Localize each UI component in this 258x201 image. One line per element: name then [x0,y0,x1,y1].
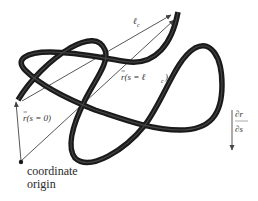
start-position-vector [16,102,21,161]
contour-length-subscript: c [137,22,140,28]
end-vector-subscript: c [161,78,164,84]
end-vector-close: ) [164,72,168,82]
contour-length-label: ℓ c [133,16,140,28]
origin-label-line2: origin [27,177,56,191]
start-vector-label: r(s = 0) [23,112,51,123]
polymer-chain-diagram: ℓ c r(s = ℓ c ) r(s = 0) ∂r ∂s coordinat… [0,0,258,201]
end-vector-text: r(s = ℓ [121,72,146,82]
coordinate-origin-point [19,160,23,164]
origin-label: coordinate origin [27,164,78,191]
origin-label-line1: coordinate [27,164,78,178]
tangent-numerator: ∂r [235,109,243,119]
polymer-tube [18,12,222,162]
end-vector-label: r(s = ℓ c ) [121,71,168,84]
tangent-label: ∂r ∂s [235,109,248,134]
tangent-denominator: ∂s [235,124,243,134]
start-vector-text: r(s = 0) [23,113,51,123]
